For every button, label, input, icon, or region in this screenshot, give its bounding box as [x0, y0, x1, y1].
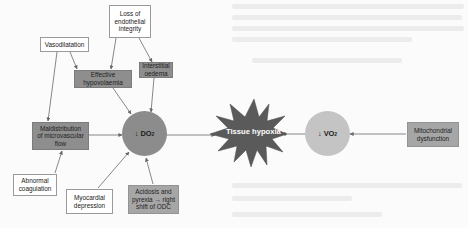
node-effective-hypovolaemia: Effectivehypovolaemia — [74, 70, 132, 88]
arrow-hypovolaemia-to-do2 — [113, 88, 131, 114]
do2-label: DO — [140, 129, 151, 138]
node-interstitial-oedema: Interstitialoedema — [139, 62, 173, 78]
down-arrow-icon: ↓ — [135, 129, 139, 138]
node-myocardial-depression: Myocardialdepression — [66, 189, 113, 214]
down-arrow-icon: ↓ — [318, 129, 322, 138]
arrow-coagulation-to-maldistribution — [55, 151, 62, 173]
node-maldistribution-microvascular-flow: Maldistributionof microvascularflow — [32, 122, 89, 150]
arrow-acidosis-to-do2 — [146, 158, 153, 184]
do2-subscript: 2 — [152, 131, 155, 137]
node-acidosis-pyrexia: Acidosis andpyrexia → rightshift of ODC — [128, 185, 179, 214]
node-vasodilatation: Vasodilatation — [40, 37, 89, 52]
node-loss-endothelial-integrity: Loss ofendothelialintegrity — [109, 5, 151, 38]
tissue-hypoxia-label: Tissue hypoxia — [226, 127, 281, 136]
vo2-label: VO — [324, 129, 335, 138]
vo2-subscript: 2 — [334, 131, 337, 137]
arrow-vaso-to-maldistribution — [48, 52, 57, 121]
vo2-circle: ↓ VO2 — [305, 111, 350, 156]
arrow-vaso-to-hypovolaemia — [70, 52, 77, 69]
arrow-myocardial-to-do2 — [98, 152, 129, 188]
node-mitochondrial-dysfunction: Mitochondrialdysfunction — [407, 122, 459, 147]
arrow-loss-to-hypovolaemia — [111, 38, 116, 69]
arrow-loss-to-oedema — [139, 38, 152, 62]
node-abnormal-coagulation: Abnormalcoagulation — [13, 174, 57, 196]
do2-circle: ↓ DO2 — [122, 111, 167, 156]
arrow-oedema-to-do2 — [151, 78, 154, 112]
